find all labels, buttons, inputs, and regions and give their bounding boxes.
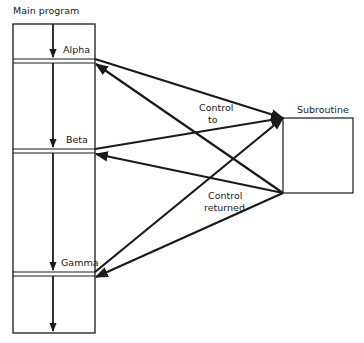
main-program-box — [13, 24, 95, 333]
main-program-title: Main program — [13, 5, 79, 16]
subroutine-box — [283, 118, 353, 193]
control-returned-label-line2: returned — [204, 202, 245, 213]
control-to-label-line1: Control — [199, 102, 233, 113]
call-point-gamma-label: Gamma — [61, 257, 99, 268]
subroutine-call-diagram: Main program Alpha Beta Gamma Subroutine — [0, 0, 364, 343]
control-returned-label-line1: Control — [208, 190, 242, 201]
control-to-label-line2: to — [208, 114, 218, 125]
control-to-arrows — [95, 59, 283, 272]
call-point-beta-label: Beta — [66, 134, 88, 145]
subroutine-title: Subroutine — [297, 104, 349, 115]
call-point-alpha-label: Alpha — [63, 44, 90, 55]
control-returned-arrows — [96, 64, 283, 277]
